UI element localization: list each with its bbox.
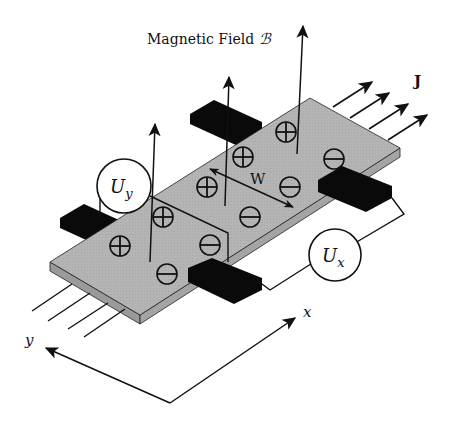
x-axis-arrow-icon	[170, 318, 295, 403]
plus-charge-icon	[110, 236, 130, 256]
current-density-label: J	[412, 72, 421, 90]
current-arrow-icon	[369, 104, 408, 129]
ux-wire-left	[262, 262, 314, 290]
y-axis-arrow-icon	[46, 348, 170, 403]
longitudinal-voltmeter: Ux	[309, 229, 361, 281]
x-axis-label: x	[303, 303, 312, 321]
plus-charge-icon	[233, 147, 253, 167]
contact-front	[188, 258, 262, 304]
plus-charge-icon	[153, 207, 173, 227]
current-arrow-icon	[333, 82, 372, 107]
y-axis-label: y	[24, 331, 34, 349]
hall-voltmeter: Uy	[97, 159, 151, 213]
current-arrow-icon	[350, 93, 389, 118]
magnetic-field-label: Magnetic Field ℬ	[147, 30, 272, 48]
coordinate-axes	[46, 318, 295, 403]
hall-effect-diagram: J	[0, 0, 454, 427]
plus-charge-icon	[276, 122, 296, 142]
plus-charge-icon	[197, 177, 217, 197]
width-label: W	[250, 170, 266, 188]
current-arrow-icon	[388, 115, 427, 140]
